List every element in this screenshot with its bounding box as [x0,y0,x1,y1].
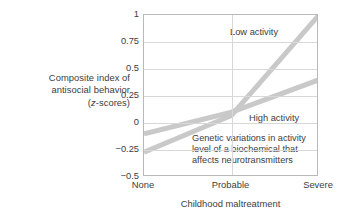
y-axis-tick-label: 1 [111,9,139,19]
y-gridline [144,96,317,97]
series-label-low-activity: Low activity [230,27,278,38]
y-axis-tick-label: 0.25 [111,90,139,100]
y-axis-tick-label: 0 [111,117,139,127]
x-axis-tick-labels: NoneProbableSevere [143,179,318,193]
y-gridline [144,69,317,70]
y-gridline [144,150,317,151]
y-axis-tick-label: −0.25 [111,144,139,154]
chart-figure: Composite index of antisocial behavior (… [0,0,353,222]
x-axis-title: Childhood maltreatment [143,198,318,210]
x-axis-tick-label: None [132,179,154,191]
gene-activity-note-line-3: affects neurotransmitters [192,155,306,166]
y-gridline [144,42,317,43]
x-gridline [232,15,233,175]
plot-area: Low activity High activity Genetic varia… [143,14,318,176]
x-axis-tick-label: Probable [212,179,250,191]
y-axis-tick-label: 0.75 [111,36,139,46]
y-axis-tick-label: 0.5 [111,63,139,73]
gene-activity-note-line-1: Genetic variations in activity [192,133,306,144]
x-axis-tick-label: Severe [303,179,333,191]
y-gridline [144,123,317,124]
